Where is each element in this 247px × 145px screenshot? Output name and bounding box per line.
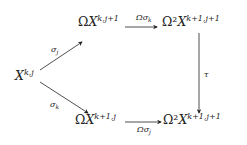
label-sigma-k: σk bbox=[50, 101, 59, 110]
node-top-right: Ω²Xk+1,j+1 bbox=[162, 15, 220, 29]
arrow-sigma-j bbox=[40, 42, 82, 70]
label-omega-sigma-k: Ωσk bbox=[136, 14, 152, 23]
node-bottom-mid: ΩXk+1,j bbox=[75, 113, 116, 127]
label-sigma-j: σj bbox=[51, 46, 58, 55]
arrow-sigma-k bbox=[40, 82, 88, 113]
node-bottom-right: Ω²Xk+1,j+1 bbox=[163, 113, 221, 127]
label-omega-sigma-j: Ωσj bbox=[137, 126, 151, 135]
label-tau: τ bbox=[204, 71, 208, 79]
node-source: Xk,j bbox=[15, 69, 34, 83]
node-top-mid: ΩXk,j+1 bbox=[78, 15, 119, 29]
